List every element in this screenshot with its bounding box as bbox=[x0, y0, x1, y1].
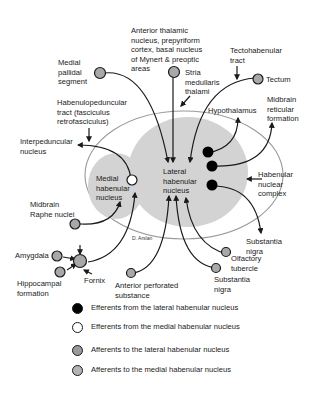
credit: D. Arslan bbox=[132, 235, 152, 241]
legend-label: Afferents to the medial habenular nucleu… bbox=[91, 365, 231, 374]
legend-item: Afferents to the medial habenular nucleu… bbox=[70, 364, 310, 378]
lhb-efferent-node-1 bbox=[203, 147, 214, 158]
label-tectum: Tectum bbox=[266, 75, 290, 85]
label-habenulopeduncular: Habenulopeduncular tract (fasciculus ret… bbox=[57, 98, 127, 127]
light-gray-dot-icon bbox=[72, 365, 83, 376]
label-midbrain-reticular: Midbrain reticular formation bbox=[267, 95, 299, 124]
label-lateral-habenular: Lateral habenular nucleus bbox=[163, 167, 197, 196]
label-substantia-nigra-afferent: Substantia nigra bbox=[214, 275, 250, 294]
black-dot-icon bbox=[72, 303, 83, 314]
midbrain-raphe-node bbox=[70, 219, 80, 229]
label-anterior-thalamic: Anterior thalamic nucleus, prepyriform c… bbox=[131, 26, 202, 74]
label-interpeduncular: Interpeduncular nucleus bbox=[20, 137, 73, 156]
tectum-node bbox=[253, 74, 263, 84]
label-stria-medullaris: Stria medullaris thalami bbox=[185, 68, 220, 97]
label-anterior-perforated: Anterior perforated substance bbox=[115, 281, 178, 300]
lhb-efferent-node-3 bbox=[207, 180, 218, 191]
legend-label: Efferents from the lateral habenular nuc… bbox=[91, 303, 238, 312]
label-olfactory-tubercle: Olfactory tubercle bbox=[231, 254, 261, 273]
legend-item: Efferents from the lateral habenular nuc… bbox=[70, 302, 310, 316]
label-habenular-complex: Habenular nuclear complex bbox=[258, 170, 293, 199]
white-dot-icon bbox=[72, 322, 83, 333]
amygdala-node bbox=[52, 251, 62, 261]
fornix-node bbox=[74, 255, 87, 268]
label-hypothalamus: Hypothalamus bbox=[208, 106, 257, 116]
label-fornix: Fornix bbox=[84, 276, 105, 286]
label-medial-pallidal: Medial pallidal segment bbox=[58, 58, 87, 87]
olfactory-tubercle-node bbox=[222, 248, 231, 257]
anterior-perforated-node bbox=[127, 269, 136, 278]
substantia-nigra-afferent-node bbox=[212, 264, 221, 273]
lhb-efferent-node-2 bbox=[207, 161, 218, 172]
label-midbrain-raphe: Midbrain Raphe nuclei bbox=[30, 200, 74, 219]
legend-item: Afferents to the lateral habenular nucle… bbox=[70, 344, 310, 358]
medial-pallidal-node bbox=[95, 68, 106, 79]
legend-label: Efferents from the medial habenular nucl… bbox=[91, 322, 240, 331]
legend-item: Efferents from the medial habenular nucl… bbox=[70, 321, 310, 335]
label-medial-habenular: Medial habenular nucleus bbox=[96, 174, 130, 203]
hippocampal-node bbox=[55, 267, 65, 277]
label-tectohabenular: Tectohabenular tract bbox=[230, 46, 282, 65]
label-substantia-nigra-efferent: Substantia nigra bbox=[246, 237, 282, 256]
legend-label: Afferents to the lateral habenular nucle… bbox=[91, 345, 229, 354]
gray-dot-icon bbox=[72, 345, 83, 356]
label-amygdala: Amygdala bbox=[15, 251, 49, 261]
label-hippocampal: Hippocampal formation bbox=[17, 279, 61, 298]
